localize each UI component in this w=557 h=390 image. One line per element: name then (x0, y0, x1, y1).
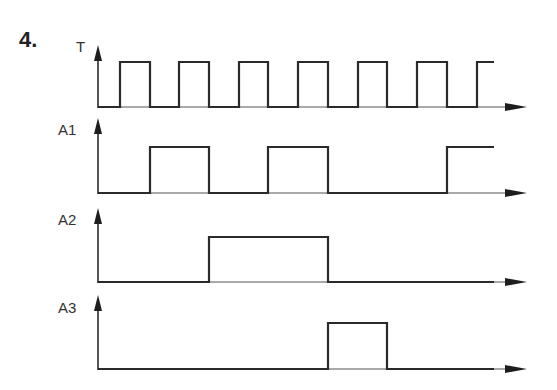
y-axis-arrow-icon (94, 208, 102, 224)
y-axis-arrow-icon (94, 295, 102, 311)
waveform (98, 147, 494, 193)
signal-label: A1 (58, 121, 76, 138)
signal-label: A2 (58, 211, 76, 228)
timing-diagram: 4. TA1A2A3 (0, 0, 557, 390)
y-axis-arrow-icon (94, 118, 102, 134)
signals-group: TA1A2A3 (58, 38, 527, 373)
signal-t: T (76, 38, 527, 111)
y-axis-arrow-icon (94, 45, 102, 61)
waveform (98, 323, 494, 369)
x-axis-arrow-icon (505, 103, 527, 111)
x-axis-arrow-icon (505, 189, 527, 197)
waveform (98, 237, 494, 282)
signal-a3: A3 (58, 295, 527, 373)
signal-a1: A1 (58, 118, 527, 197)
waveform (98, 62, 494, 107)
problem-number: 4. (19, 27, 37, 52)
signal-label: T (76, 38, 85, 55)
x-axis-arrow-icon (505, 365, 527, 373)
signal-label: A3 (58, 299, 76, 316)
x-axis-arrow-icon (505, 278, 527, 286)
signal-a2: A2 (58, 208, 527, 286)
